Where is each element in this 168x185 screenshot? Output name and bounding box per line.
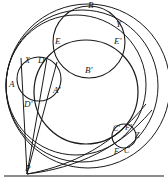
point-label-C-prime: C' (113, 125, 120, 133)
point-label-B: B (88, 1, 94, 10)
point-label-Y: Y (116, 20, 121, 29)
point-label-E: E (55, 37, 61, 46)
tangent-line-vertical-AP (21, 58, 27, 174)
point-label-A: A (9, 80, 15, 89)
point-label-F-prime: F' (125, 124, 132, 132)
tangent-line-P-to-Aprime (27, 62, 57, 174)
point-label-B-prime: B' (85, 66, 92, 75)
point-label-D-prime: D' (24, 100, 32, 109)
point-label-C: C (124, 147, 129, 155)
point-label-Z: Z (135, 132, 139, 140)
point-label-F: F (114, 148, 119, 156)
geometry-figure: B Y E E' X D B' A A' D' C' F' Z F C P (0, 0, 168, 185)
point-label-P: P (25, 164, 31, 173)
point-label-X: X (25, 57, 30, 65)
tangent-arc-P-to-Cprime (27, 104, 146, 174)
point-label-D: D (38, 56, 45, 65)
point-label-E-prime: E' (114, 37, 121, 46)
figure-canvas (0, 0, 168, 185)
point-label-A-prime: A' (53, 86, 60, 95)
